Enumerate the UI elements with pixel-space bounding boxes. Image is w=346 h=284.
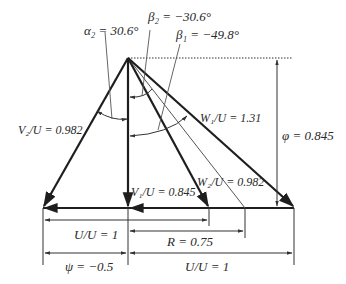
phi-label: φ = 0.845 — [282, 128, 334, 143]
psi-label: ψ = −0.5 — [65, 259, 114, 274]
alpha2-label: α₂ = 30.6° — [84, 23, 139, 38]
beta1-arc — [130, 116, 187, 136]
v1-label: V₁/U = 0.845 — [131, 185, 196, 199]
beta2-leader — [142, 30, 150, 96]
w2-label: W₂/U = 0.982 — [197, 175, 264, 189]
alpha2-leader — [105, 32, 112, 119]
velocity-triangle-diagram: α₂ = 30.6° β₂ = −30.6° β₁ = −49.8° V₂/U … — [0, 0, 346, 284]
w2-vector-thick — [128, 58, 208, 206]
beta2-label: β₂ = −30.6° — [147, 9, 211, 24]
uu-bottom-label: U/U = 1 — [185, 259, 229, 274]
w1-label: W₁/U = 1.31 — [200, 111, 261, 125]
r-label: R = 0.75 — [166, 234, 213, 249]
uu-top-label: U/U = 1 — [74, 227, 118, 242]
beta1-label: β₁ = −49.8° — [175, 27, 239, 42]
v2-label: V₂/U = 0.982 — [18, 123, 83, 137]
